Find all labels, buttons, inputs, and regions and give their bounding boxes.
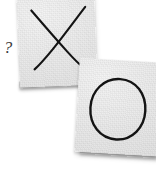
card-with-circle-mark[interactable] — [74, 58, 156, 157]
question-mark-label: ? — [0, 36, 16, 60]
card-scene: ? — [0, 0, 156, 177]
card-o-paper-surface — [74, 58, 156, 157]
